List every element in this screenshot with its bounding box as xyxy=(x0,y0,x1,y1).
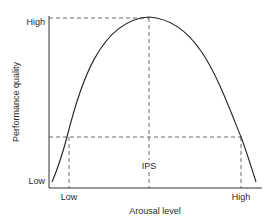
y-low-label: Low xyxy=(28,176,45,186)
ips-label: IPS xyxy=(142,161,157,171)
performance-curve xyxy=(52,17,256,182)
y-axis-title: Performance quality xyxy=(11,61,21,142)
x-high-label: High xyxy=(232,192,251,202)
y-high-label: High xyxy=(26,17,45,27)
inverted-u-chart: High Low Low High IPS Arousal level Perf… xyxy=(0,0,276,224)
x-axis-title: Arousal level xyxy=(129,206,181,216)
x-low-label: Low xyxy=(61,192,78,202)
